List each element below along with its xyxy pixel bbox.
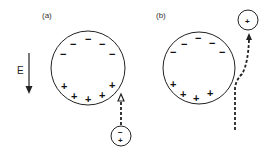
charge-diagram: (a) E − − − − − + + + + + − + xyxy=(0,0,269,155)
arrowhead-icon xyxy=(118,94,124,101)
trajectory-b xyxy=(235,40,249,130)
particle-positive-charge: + xyxy=(245,17,250,26)
svg-text:−: − xyxy=(60,48,66,60)
svg-text:−: − xyxy=(209,37,215,49)
e-field-label: E xyxy=(17,65,24,76)
particle-positive-charge: + xyxy=(118,136,123,145)
svg-text:−: − xyxy=(195,32,201,44)
svg-text:+: + xyxy=(85,93,91,105)
svg-text:−: − xyxy=(109,48,115,60)
svg-text:−: − xyxy=(99,38,105,50)
svg-text:−: − xyxy=(219,46,225,58)
panel-a: (a) E − − − − − + + + + + − + xyxy=(17,11,131,146)
svg-text:+: + xyxy=(71,90,77,102)
negative-charges-b: − − − − − xyxy=(170,32,225,58)
panel-b-label: (b) xyxy=(156,11,166,20)
svg-text:−: − xyxy=(170,46,176,58)
svg-text:+: + xyxy=(180,88,186,100)
svg-text:+: + xyxy=(109,79,115,91)
svg-text:−: − xyxy=(181,38,187,50)
svg-text:+: + xyxy=(193,92,199,104)
svg-text:−: − xyxy=(70,38,76,50)
svg-text:+: + xyxy=(170,78,176,90)
positive-charges-a: + + + + + xyxy=(61,79,115,105)
e-field-arrow-icon xyxy=(26,53,33,94)
panel-a-label: (a) xyxy=(42,11,52,20)
arrowhead-icon xyxy=(246,33,252,40)
panel-b: (b) − − − − − + + + + + xyxy=(156,10,258,130)
svg-text:+: + xyxy=(207,87,213,99)
positive-charges-b: + + + + xyxy=(170,78,213,104)
svg-text:+: + xyxy=(61,80,67,92)
svg-text:+: + xyxy=(99,89,105,101)
svg-text:−: − xyxy=(85,33,91,45)
